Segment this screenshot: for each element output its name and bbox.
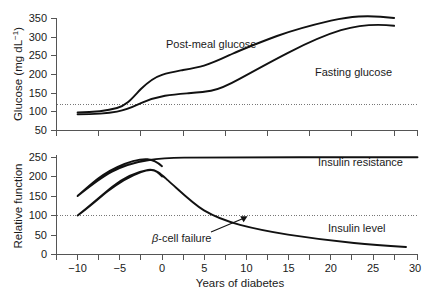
- bottom-ytick-200: 200: [29, 170, 47, 182]
- xtick-10: 10: [240, 262, 252, 274]
- svg-text:Relative function: Relative function: [12, 163, 24, 248]
- curve-post-meal-glucose: [78, 16, 395, 112]
- top-ytick-100: 100: [29, 105, 47, 117]
- figure-container: 350 300 250 200 150 100 50 Glucose (mg d…: [0, 0, 435, 292]
- bottom-ytick-0: 0: [41, 248, 47, 260]
- bottom-ytick-50: 50: [35, 229, 47, 241]
- bottom-ytick-100: 100: [29, 209, 47, 221]
- xtick-20: 20: [325, 262, 337, 274]
- beta-cell-failure-label: β-cell failure: [151, 232, 211, 244]
- top-ytick-350: 350: [29, 12, 47, 24]
- bottom-x-ticks: [57, 255, 418, 261]
- top-y-ticks: [51, 19, 57, 131]
- top-y-axis-title-main: Glucose (mg dL: [12, 39, 24, 121]
- label-fasting-glucose: Fasting glucose: [315, 66, 392, 78]
- top-y-axis-title-close: ): [12, 27, 24, 31]
- top-ytick-300: 300: [29, 31, 47, 43]
- relative-function-panel: 250 200 150 100 50 0 Relative function: [12, 151, 421, 289]
- label-insulin-resistance: Insulin resistance: [318, 156, 403, 168]
- svg-text:Glucose (mg dL−1): Glucose (mg dL−1): [11, 27, 24, 121]
- beta-cell-failure-text: -cell failure: [158, 232, 211, 244]
- xtick--10: −10: [68, 262, 87, 274]
- bottom-y-axis-title: Relative function: [12, 163, 24, 248]
- label-post-meal-glucose: Post-meal glucose: [166, 38, 257, 50]
- curve-insulin-level: [78, 170, 406, 247]
- xtick-25: 25: [367, 262, 379, 274]
- bottom-ytick-150: 150: [29, 190, 47, 202]
- x-axis-title: Years of diabetes: [196, 277, 285, 289]
- xtick-0: 0: [159, 262, 165, 274]
- beta-cell-failure-annotation: β-cell failure: [151, 216, 248, 244]
- glucose-panel: 350 300 250 200 150 100 50 Glucose (mg d…: [11, 12, 418, 136]
- top-ytick-150: 150: [29, 87, 47, 99]
- chart-svg: 350 300 250 200 150 100 50 Glucose (mg d…: [0, 0, 435, 292]
- bottom-y-ticks: [51, 157, 57, 255]
- top-ytick-50: 50: [35, 124, 47, 136]
- xtick-15: 15: [282, 262, 294, 274]
- top-x-ticks: [57, 131, 418, 137]
- label-insulin-level: Insulin level: [328, 222, 385, 234]
- xtick--5: −5: [114, 262, 127, 274]
- xtick-30: 30: [409, 262, 421, 274]
- top-ytick-250: 250: [29, 49, 47, 61]
- top-ytick-200: 200: [29, 68, 47, 80]
- xtick-5: 5: [201, 262, 207, 274]
- bottom-ytick-250: 250: [29, 151, 47, 163]
- top-y-axis-title: Glucose (mg dL−1): [11, 27, 24, 121]
